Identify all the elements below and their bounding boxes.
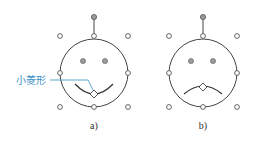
handle-bottom-right[interactable] (126, 105, 131, 110)
handle-top-right[interactable] (235, 34, 240, 39)
handle-bottom-left[interactable] (167, 105, 172, 110)
face-outline (169, 39, 237, 107)
handle-bottom-right[interactable] (235, 105, 240, 110)
handle-top-left[interactable] (58, 34, 63, 39)
handle-bottom-left[interactable] (58, 105, 63, 110)
right-eye (210, 58, 215, 63)
handle-top[interactable] (201, 34, 206, 39)
handle-bottom[interactable] (201, 105, 206, 110)
figure-b: b) (167, 14, 240, 132)
adjust-diamond-handle[interactable] (90, 90, 98, 98)
caption-b: b) (199, 120, 207, 132)
left-eye (80, 58, 85, 63)
right-eye (102, 58, 107, 63)
adjust-diamond-handle[interactable] (199, 83, 207, 91)
handle-top-left[interactable] (167, 34, 172, 39)
handle-bottom[interactable] (92, 105, 97, 110)
handle-left[interactable] (167, 71, 172, 76)
handle-right[interactable] (126, 71, 131, 76)
handle-right[interactable] (235, 71, 240, 76)
handle-top-right[interactable] (126, 34, 131, 39)
rotation-handle[interactable] (200, 14, 205, 19)
caption-a: a) (90, 120, 98, 132)
callout-leader-line (50, 80, 93, 90)
callout-label: 小菱形 (16, 75, 46, 86)
handle-top[interactable] (92, 34, 97, 39)
handle-left[interactable] (58, 71, 63, 76)
rotation-handle[interactable] (91, 14, 96, 19)
left-eye (188, 58, 193, 63)
figure-a: 小菱形 a) (16, 14, 130, 132)
diagram-canvas: 小菱形 a) b) (0, 0, 254, 144)
